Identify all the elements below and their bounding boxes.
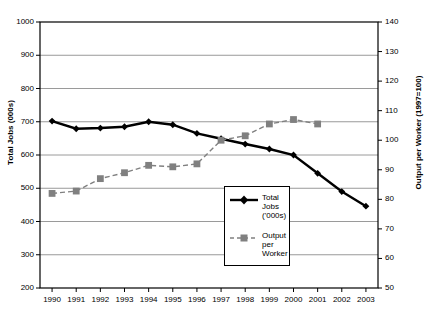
chart-container: Total Jobs (000s) Output per Worker (199… [0,0,431,320]
legend-swatch-output-per-worker [229,231,259,245]
data-series [49,116,370,209]
legend-label-output-per-worker: Output per Worker [259,231,288,258]
chart-legend: Total Jobs ('000s) Output per Worker [224,186,290,266]
legend-item-total-jobs: Total Jobs ('000s) [229,193,286,220]
legend-item-output-per-worker: Output per Worker [229,231,288,258]
gridlines [40,22,378,288]
legend-label-total-jobs: Total Jobs ('000s) [259,193,286,220]
legend-swatch-total-jobs [229,193,259,207]
plot-frame [36,22,382,292]
plot-area [0,0,431,320]
